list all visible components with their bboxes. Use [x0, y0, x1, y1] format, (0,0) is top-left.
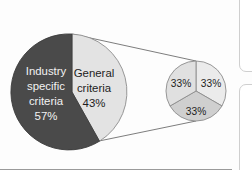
pie-chart-figure: Industry specific criteria 57% General c…	[0, 0, 252, 170]
industry-label-line3: criteria	[29, 95, 64, 107]
callout-value-right: 33%	[201, 78, 221, 89]
callout-value-left: 33%	[171, 78, 191, 89]
general-label-line1: General	[74, 67, 115, 79]
general-value-label: 43%	[83, 97, 106, 109]
industry-value-label: 57%	[35, 110, 58, 122]
page-edge-box-bottom	[239, 84, 252, 170]
general-label-line2: criteria	[77, 82, 112, 94]
page-edge-box-top	[239, 0, 252, 72]
callout-value-bottom: 33%	[186, 106, 206, 117]
industry-label-line2: specific	[27, 80, 65, 92]
figure-canvas: Industry specific criteria 57% General c…	[0, 0, 252, 170]
industry-label-line1: Industry	[26, 65, 67, 77]
bottom-rule	[0, 169, 232, 170]
